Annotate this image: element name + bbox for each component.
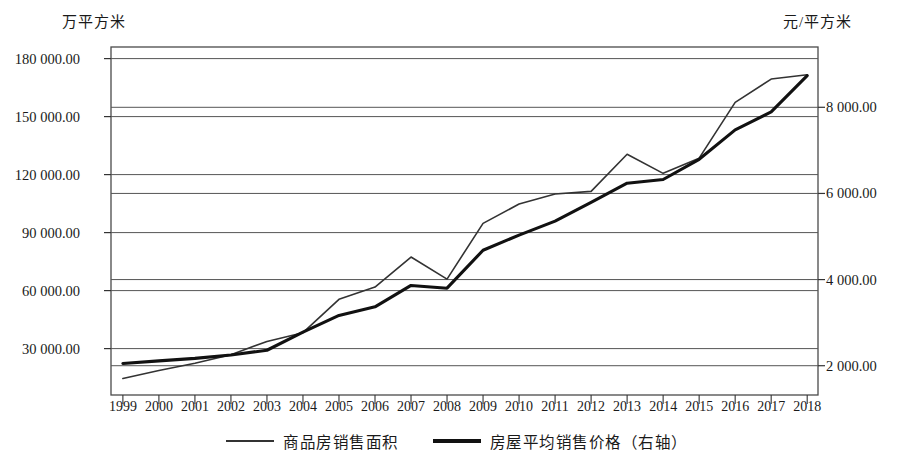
xtick-label-2002: 2002 [217, 399, 245, 415]
ytick-label-right-1: 4 000.00 [826, 271, 877, 288]
ytick-label-left-5: 180 000.00 [15, 50, 80, 67]
xtick-label-2005: 2005 [325, 399, 353, 415]
xtick-label-2000: 2000 [145, 399, 173, 415]
xtick-label-2013: 2013 [613, 399, 641, 415]
chart-legend: 商品房销售面积房屋平均销售价格（右轴） [0, 430, 914, 452]
thin-line-swatch [226, 440, 274, 442]
series-line-0 [123, 75, 807, 379]
plot-area [0, 0, 914, 458]
xtick-label-2018: 2018 [793, 399, 821, 415]
xtick-label-2004: 2004 [289, 399, 317, 415]
xtick-label-2012: 2012 [577, 399, 605, 415]
xtick-label-2014: 2014 [649, 399, 677, 415]
ytick-label-left-3: 120 000.00 [15, 166, 80, 183]
xtick-label-2010: 2010 [505, 399, 533, 415]
xtick-label-2009: 2009 [469, 399, 497, 415]
plot-border [111, 47, 818, 395]
xtick-label-2001: 2001 [181, 399, 209, 415]
ytick-label-left-2: 90 000.00 [22, 224, 80, 241]
thick-line-swatch [433, 439, 481, 442]
xtick-label-1999: 1999 [109, 399, 137, 415]
ytick-label-left-0: 30 000.00 [22, 340, 80, 357]
xtick-label-2003: 2003 [253, 399, 281, 415]
ytick-label-left-1: 60 000.00 [22, 282, 80, 299]
xtick-label-2011: 2011 [541, 399, 568, 415]
ytick-label-right-2: 6 000.00 [826, 185, 877, 202]
legend-label-0: 商品房销售面积 [283, 430, 399, 452]
xtick-label-2007: 2007 [397, 399, 425, 415]
xtick-label-2015: 2015 [685, 399, 713, 415]
xtick-label-2008: 2008 [433, 399, 461, 415]
ytick-label-right-0: 2 000.00 [826, 357, 877, 374]
xtick-label-2006: 2006 [361, 399, 389, 415]
legend-item-1[interactable]: 房屋平均销售价格（右轴） [433, 430, 688, 452]
series-line-1 [123, 76, 807, 364]
legend-item-0[interactable]: 商品房销售面积 [226, 430, 399, 452]
ytick-label-right-3: 8 000.00 [826, 99, 877, 116]
xtick-label-2016: 2016 [721, 399, 749, 415]
chart-container: 万平方米 元/平方米 30 000.0060 000.0090 000.0012… [0, 0, 914, 458]
ytick-label-left-4: 150 000.00 [15, 108, 80, 125]
legend-label-1: 房屋平均销售价格（右轴） [490, 430, 688, 452]
xtick-label-2017: 2017 [757, 399, 785, 415]
